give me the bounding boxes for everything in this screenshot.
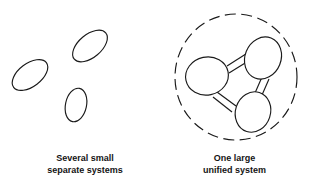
- right-panel-group: [175, 14, 297, 140]
- left-panel-caption-line-2: separate systems: [0, 165, 170, 177]
- unified-nodes-group: [182, 31, 288, 137]
- right-panel-caption-line-2: unified system: [160, 165, 309, 177]
- right-panel-caption-line-1: One large: [160, 153, 309, 165]
- left-panel-caption-line-1: Several small: [0, 153, 170, 165]
- small-system-ellipse-top-right: [67, 24, 113, 68]
- right-panel-caption: One large unified system: [160, 153, 309, 176]
- small-system-ellipse-left: [7, 53, 54, 96]
- unified-node-top-right: [238, 31, 287, 84]
- left-panel-caption: Several small separate systems: [0, 153, 170, 176]
- connector-bottom-right-to-left: [213, 92, 236, 112]
- left-panel-group: [7, 24, 113, 124]
- small-system-ellipse-bottom: [62, 86, 90, 124]
- unified-node-left: [182, 53, 232, 99]
- diagram-canvas: Several small separate systems One large…: [0, 0, 309, 188]
- unified-node-bottom-right: [230, 87, 276, 137]
